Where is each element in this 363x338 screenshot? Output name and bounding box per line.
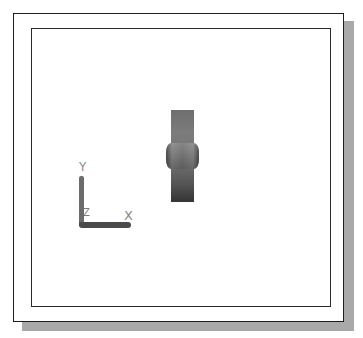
ucs-z-label: Z — [83, 208, 90, 218]
ucs-y-axis-icon — [79, 176, 84, 226]
ucs-x-label: X — [124, 209, 133, 222]
wheel-hub-shading — [166, 143, 199, 169]
ucs-y-label: Y — [79, 161, 86, 173]
